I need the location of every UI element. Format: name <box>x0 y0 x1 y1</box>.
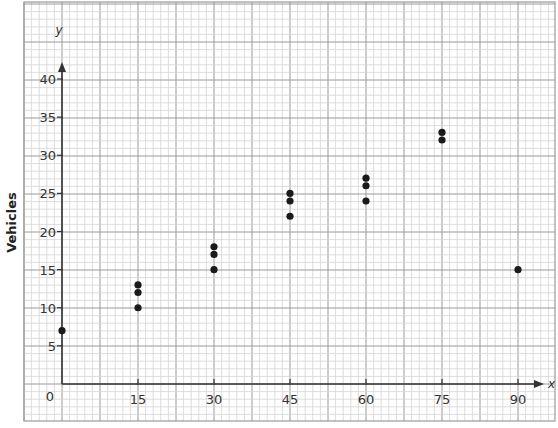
data-point <box>362 182 369 189</box>
x-tick-label: 90 <box>510 392 527 407</box>
y-tick-label: 15 <box>39 263 56 278</box>
x-tick-label: 30 <box>206 392 223 407</box>
data-point <box>286 197 293 204</box>
data-point <box>58 327 65 334</box>
y-tick-label: 35 <box>39 110 56 125</box>
data-point <box>210 251 217 258</box>
data-point <box>438 129 445 136</box>
y-axis-title: Vehicles <box>2 182 20 262</box>
y-tick-label: 20 <box>39 225 56 240</box>
x-tick-label: 45 <box>282 392 299 407</box>
data-point <box>514 266 521 273</box>
data-point <box>210 266 217 273</box>
data-point <box>134 281 141 288</box>
data-point <box>362 175 369 182</box>
y-tick-label: 25 <box>39 186 56 201</box>
data-point <box>210 243 217 250</box>
data-point <box>134 289 141 296</box>
data-point <box>286 190 293 197</box>
y-tick-label: 40 <box>39 72 56 87</box>
y-tick-label: 30 <box>39 148 56 163</box>
x-axis-arrow-icon <box>534 380 544 388</box>
y-axis-letter: y <box>54 23 63 37</box>
y-tick-label: 10 <box>39 301 56 316</box>
data-point <box>134 304 141 311</box>
scatter-chart: yx 0510152025303540153045607590 <box>0 0 558 428</box>
x-tick-label: 60 <box>358 392 375 407</box>
y-axis-title-text: Vehicles <box>4 192 19 253</box>
y-axis-arrow-icon <box>58 62 66 72</box>
x-tick-label: 15 <box>130 392 147 407</box>
graph-paper-grid <box>24 2 555 421</box>
y-tick-label: 0 <box>46 389 54 404</box>
data-point <box>362 197 369 204</box>
data-point <box>286 213 293 220</box>
x-axis-letter: x <box>547 377 556 391</box>
y-tick-label: 5 <box>48 339 56 354</box>
data-point <box>438 136 445 143</box>
x-tick-label: 75 <box>434 392 451 407</box>
